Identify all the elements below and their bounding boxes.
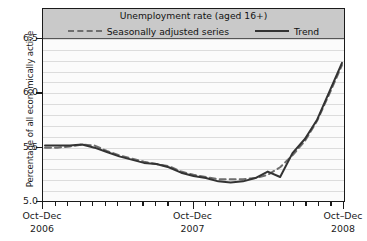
y-tick-label: 6.5 xyxy=(12,32,38,43)
y-tick-mark xyxy=(36,147,42,148)
x-tick-label: Oct–Dec2007 xyxy=(153,210,233,235)
plot-area: Unemployment rate (aged 16+) Seasonally … xyxy=(42,8,345,202)
x-tick-label-year: 2006 xyxy=(2,223,82,236)
x-tick-minor xyxy=(318,202,319,206)
series-lines xyxy=(43,9,345,202)
y-tick-mark xyxy=(36,92,42,93)
y-tick-label: 5.0 xyxy=(12,195,38,206)
series-line-trend xyxy=(45,63,342,183)
x-tick-major xyxy=(42,202,43,209)
x-tick-minor xyxy=(55,202,56,206)
y-axis-tick-labels: 5.05.56.06.5 xyxy=(12,0,38,241)
x-tick-label-period: Oct–Dec xyxy=(323,210,362,221)
x-tick-label-period: Oct–Dec xyxy=(173,210,212,221)
x-tick-minor xyxy=(243,202,244,206)
x-tick-minor xyxy=(330,202,331,206)
x-tick-major xyxy=(193,202,194,209)
x-tick-minor xyxy=(268,202,269,206)
x-tick-minor xyxy=(293,202,294,206)
x-tick-minor xyxy=(117,202,118,206)
series-line-seasonally-adjusted-series xyxy=(45,65,342,179)
x-tick-minor xyxy=(230,202,231,206)
x-tick-label: Oct–Dec2006 xyxy=(2,210,82,235)
x-tick-minor xyxy=(92,202,93,206)
y-tick-mark xyxy=(36,201,42,202)
x-tick-major xyxy=(343,202,344,209)
x-tick-label: Oct–Dec2008 xyxy=(303,210,367,235)
x-tick-minor xyxy=(280,202,281,206)
x-tick-minor xyxy=(218,202,219,206)
x-tick-minor xyxy=(155,202,156,206)
y-tick-mark xyxy=(36,38,42,39)
x-tick-minor xyxy=(167,202,168,206)
x-tick-label-period: Oct–Dec xyxy=(22,210,61,221)
x-tick-label-year: 2007 xyxy=(153,223,233,236)
x-tick-minor xyxy=(142,202,143,206)
y-tick-label: 5.5 xyxy=(12,141,38,152)
x-axis-ticks xyxy=(42,202,345,209)
x-tick-minor xyxy=(67,202,68,206)
x-tick-minor xyxy=(80,202,81,206)
x-tick-minor xyxy=(130,202,131,206)
x-tick-minor xyxy=(305,202,306,206)
x-tick-label-year: 2008 xyxy=(303,223,367,236)
x-tick-minor xyxy=(105,202,106,206)
y-tick-label: 6.0 xyxy=(12,86,38,97)
x-tick-minor xyxy=(180,202,181,206)
x-tick-minor xyxy=(255,202,256,206)
x-tick-minor xyxy=(205,202,206,206)
